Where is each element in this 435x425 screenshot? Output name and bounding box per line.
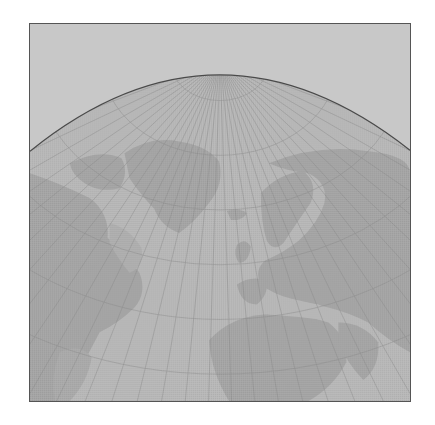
map-frame (29, 23, 411, 402)
globe-map (30, 24, 410, 401)
